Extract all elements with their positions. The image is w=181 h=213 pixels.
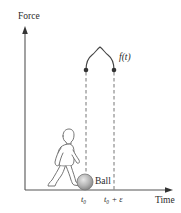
t0-tick-label: t₀ [81,195,86,204]
walking-person-icon [48,129,80,186]
curve-label: f(t) [119,53,131,63]
impulse-diagram: Force Time f(t) Ball t₀ t₀ + ε [0,0,181,213]
ball-label: Ball [95,177,111,187]
force-axis [22,26,28,190]
arrow-right-icon [165,187,173,193]
x-axis-label: Time [155,196,175,206]
t0-eps-tick-label: t₀ + ε [104,195,123,204]
curve-end-dot [112,68,117,73]
time-axis [25,187,173,193]
arrow-up-icon [22,26,28,34]
ball [77,174,93,190]
curve-start-dot [84,68,89,73]
impulse-curve [84,47,117,72]
y-axis-label: Force [18,12,40,22]
diagram-canvas [0,0,181,213]
dashed-markers [86,72,114,190]
